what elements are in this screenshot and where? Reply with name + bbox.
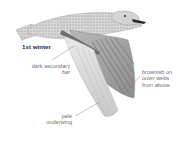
- annotation-line: outer webs: [142, 75, 172, 81]
- age-label: 1st winter: [22, 43, 51, 50]
- annotation-line: from above: [142, 82, 172, 88]
- annotation-outer-webs: brownish on outer webs from above: [142, 69, 172, 88]
- gull-illustration: 1st winter dark secondary bar brownish o…: [0, 0, 196, 141]
- annotation-line: underwing: [20, 119, 72, 125]
- annotation-line: bar: [8, 69, 70, 75]
- annotation-secondary-bar: dark secondary bar: [8, 63, 70, 76]
- annotation-underwing: pale underwing: [20, 113, 72, 126]
- eye: [124, 15, 126, 17]
